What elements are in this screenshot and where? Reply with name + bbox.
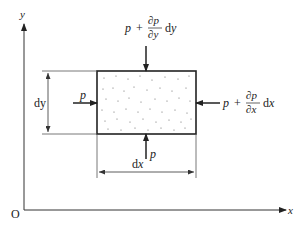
fluid-element [97,71,196,134]
dx-label: dx [132,157,144,171]
right-force-suffix: dx [263,96,275,110]
top-force-numerator: ∂p [148,14,159,26]
y-axis-label: y [19,8,25,20]
left-force-label: p [79,88,86,102]
top-force-plus: + [136,21,143,35]
right-force-numerator: ∂p [246,89,257,101]
force-left: p [73,88,97,103]
force-right: p + ∂p ∂x dx [196,89,275,115]
right-force-base: p [222,96,229,110]
top-force-suffix: dy [165,21,177,35]
force-bottom: p [146,134,156,161]
bottom-force-label: p [149,147,156,161]
right-force-denominator: ∂x [246,103,256,115]
dy-label: dy [34,96,46,110]
top-force-denominator: ∂y [148,28,158,40]
x-axis-label: x [287,204,293,216]
element-rectangle [97,71,196,134]
right-force-plus: + [234,96,241,110]
origin-label: O [11,207,20,221]
top-force-base: p [124,21,131,35]
force-top: p + ∂p ∂y dy [124,14,177,71]
diagram-canvas: y x O dy dx p p [0,0,299,226]
